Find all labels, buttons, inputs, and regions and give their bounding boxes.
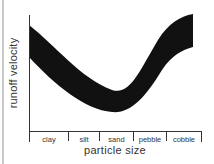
category-label-sand: sand [100, 135, 133, 144]
x-axis-label: particle size [84, 144, 146, 156]
category-label-silt: silt [69, 135, 99, 144]
category-label-clay: clay [34, 135, 64, 144]
velocity-band [29, 14, 193, 112]
category-label-pebble: pebble [134, 135, 166, 144]
category-label-cobble: cobble [167, 135, 201, 144]
y-axis-label: runoff velocity [7, 38, 19, 109]
